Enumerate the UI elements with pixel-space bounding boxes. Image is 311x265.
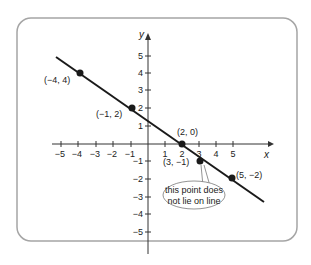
x-axis-label: x (263, 149, 270, 160)
svg-text:−4: −4 (72, 149, 82, 159)
point-neg1-2 (129, 105, 136, 112)
point-2-0 (179, 141, 186, 148)
svg-text:−5: −5 (133, 227, 143, 237)
svg-text:5: 5 (230, 149, 235, 159)
svg-text:−3: −3 (133, 192, 143, 202)
svg-text:(2, 0): (2, 0) (177, 127, 198, 137)
svg-text:−1: −1 (133, 156, 143, 166)
svg-text:−2: −2 (133, 174, 143, 184)
svg-text:(3, −1): (3, −1) (163, 157, 189, 167)
svg-text:2: 2 (138, 103, 143, 113)
svg-text:4: 4 (138, 68, 143, 78)
svg-text:5: 5 (138, 51, 143, 61)
point-neg4-4 (77, 70, 84, 77)
y-axis-label: y (138, 29, 145, 40)
callout-line-1: this point does (165, 185, 224, 195)
svg-text:(−1, 2): (−1, 2) (96, 109, 122, 119)
svg-text:4: 4 (213, 149, 218, 159)
point-3-neg1 (197, 158, 204, 165)
svg-text:−5: −5 (55, 149, 65, 159)
svg-text:1: 1 (138, 121, 143, 131)
chart-frame (17, 18, 297, 241)
point-5-neg2 (229, 175, 236, 182)
callout-line-2: not lie on line (167, 196, 220, 206)
svg-text:(−4, 4): (−4, 4) (44, 75, 70, 85)
svg-text:−3: −3 (90, 149, 100, 159)
svg-text:−2: −2 (107, 149, 117, 159)
svg-text:3: 3 (138, 85, 143, 95)
svg-text:(5, −2): (5, −2) (236, 170, 262, 180)
svg-text:−4: −4 (133, 209, 143, 219)
chart-figure: x y −5 −4 −3 −2 −1 1 2 3 4 5 5 4 3 2 1 −… (0, 0, 311, 265)
